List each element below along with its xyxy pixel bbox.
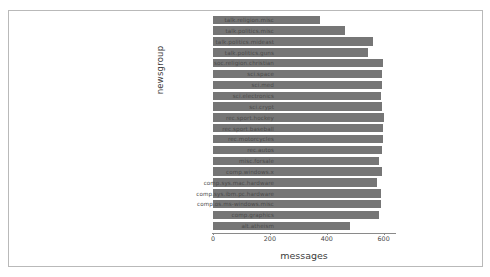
y-axis-tick-label: talk.politics.guns — [225, 48, 274, 59]
x-axis-tick-label: 0 — [211, 235, 215, 243]
x-axis-line — [212, 233, 396, 234]
y-axis-label: newsgroup — [155, 0, 175, 140]
y-axis-tick-label: sci.electronics — [233, 91, 274, 102]
x-axis-tick-label: 200 — [264, 235, 276, 243]
y-axis-tick-label: rec.sport.hockey — [226, 113, 274, 124]
y-axis-tick-label: rec.motorcycles — [228, 134, 274, 145]
bar — [213, 146, 382, 154]
y-axis-tick-label: misc.forsale — [239, 156, 274, 167]
bar — [213, 222, 350, 230]
figure-canvas: newsgroup messages talk.religion.misctal… — [0, 0, 490, 277]
y-axis-tick-label: alt.atheism — [241, 221, 274, 232]
bar — [213, 157, 379, 165]
y-axis-tick-label: sci.med — [252, 80, 274, 91]
bar-row — [213, 80, 395, 91]
bar-row — [213, 221, 395, 232]
y-axis-tick-label: comp.os.ms-windows.misc — [197, 199, 274, 210]
y-axis-tick-label: talk.religion.misc — [224, 15, 274, 26]
bar-row — [213, 69, 395, 80]
bar-row — [213, 145, 395, 156]
y-axis-tick-label: sci.crypt — [249, 102, 274, 113]
y-axis-tick-label: talk.politics.misc — [225, 26, 274, 37]
y-axis-tick-label: talk.politics.mideast — [216, 37, 274, 48]
x-axis-label: messages — [213, 250, 395, 261]
y-axis-tick-label: comp.windows.x — [226, 167, 274, 178]
y-axis-tick-label: comp.graphics — [232, 210, 275, 221]
y-axis-tick-label: soc.religion.christian — [214, 58, 274, 69]
x-axis-tick-label: 400 — [321, 235, 333, 243]
y-axis-tick-label: comp.sys.mac.hardware — [204, 178, 274, 189]
x-axis-tick-label: 600 — [378, 235, 390, 243]
bar — [213, 102, 382, 110]
bar — [213, 81, 382, 89]
bar — [213, 70, 382, 78]
y-axis-tick-label: rec.sport.baseball — [222, 124, 274, 135]
y-axis-tick-label: comp.sys.ibm.pc.hardware — [196, 189, 274, 200]
y-axis-tick-label: sci.space — [247, 69, 274, 80]
y-axis-tick-label: rec.autos — [247, 145, 274, 156]
bar-row — [213, 102, 395, 113]
